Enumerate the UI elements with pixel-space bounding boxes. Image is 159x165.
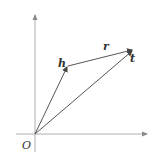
diagram-canvas: O h r t	[0, 0, 159, 165]
origin-label: O	[22, 139, 31, 152]
h-label: h	[58, 57, 66, 70]
r-label: r	[103, 40, 110, 53]
vector-h	[35, 67, 67, 134]
vector-r	[68, 50, 132, 66]
t-label: t	[130, 52, 135, 65]
vector-t	[35, 51, 132, 134]
